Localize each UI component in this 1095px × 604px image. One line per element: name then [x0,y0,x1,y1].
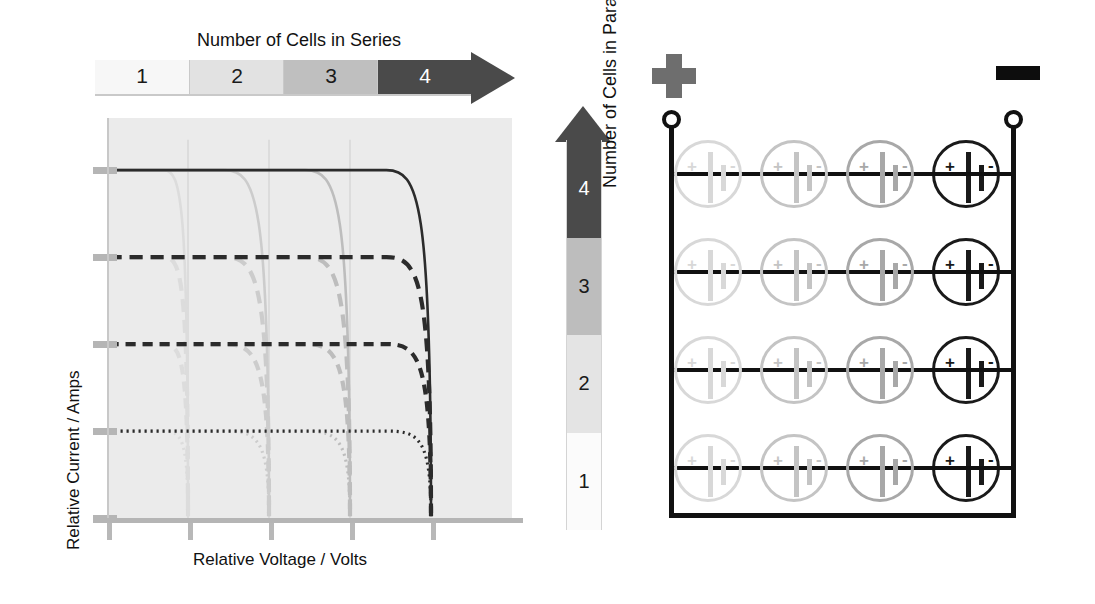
cell-minus-label: - [730,353,736,370]
battery-cell: +- [846,238,914,306]
chart-y-axis-line [107,118,109,518]
chart-curves [107,118,512,518]
series-legend-title: Number of Cells in Series [197,30,401,51]
series-band-label: 3 [325,64,337,88]
cell-negative-plate [807,459,812,485]
cell-negative-plate [979,361,984,387]
iv-chart: Relative Current / Amps Relative Voltage… [40,110,540,580]
cell-minus-label: - [816,353,822,370]
chart-curve [109,257,350,516]
negative-terminal-node [1004,110,1023,129]
chart-y-tick [93,428,117,435]
parallel-legend-title: Number of Cells in Parallel [600,0,621,188]
cell-negative-plate [893,459,898,485]
cell-negative-plate [807,165,812,191]
cell-negative-plate [979,263,984,289]
cell-negative-plate [807,361,812,387]
negative-terminal-icon [996,66,1040,80]
parallel-band-label: 2 [578,372,589,395]
cell-positive-plate [794,250,799,301]
cell-minus-label: - [730,157,736,174]
battery-array-schematic: +-+-+-+-+-+-+-+-+-+-+-+-+-+-+-+- [648,48,1068,548]
cell-minus-label: - [902,353,908,370]
battery-cell: +- [760,434,828,502]
cell-positive-plate [966,152,971,203]
cell-positive-plate [880,250,885,301]
cell-plus-label: + [859,256,869,273]
diagram-canvas: Number of Cells in Series 1234 Relative … [0,0,1095,604]
cell-minus-label: - [902,157,908,174]
cell-positive-plate [966,446,971,497]
cell-minus-label: - [902,255,908,272]
positive-terminal-node [662,110,681,129]
battery-cell: +- [760,238,828,306]
cell-minus-label: - [730,255,736,272]
parallel-band-2: 2 [566,335,602,433]
chart-x-axis-label: Relative Voltage / Volts [193,550,367,570]
cell-positive-plate [708,348,713,399]
battery-cell: +- [674,238,742,306]
parallel-band-label: 4 [578,177,589,200]
battery-cell: +- [846,434,914,502]
battery-cell: +- [846,336,914,404]
cell-positive-plate [794,152,799,203]
right-bus-bar [1011,128,1016,518]
positive-terminal-icon [652,54,696,98]
cell-negative-plate [721,361,726,387]
chart-curve [109,257,188,516]
battery-cell: +- [674,140,742,208]
cell-negative-plate [893,165,898,191]
cell-plus-label: + [773,452,783,469]
series-band-4: 4 [377,60,472,94]
parallel-band-label: 1 [578,470,589,493]
cell-negative-plate [721,165,726,191]
cell-plus-label: + [773,354,783,371]
cell-negative-plate [893,361,898,387]
chart-y-tick [93,254,117,261]
battery-cell: +- [760,336,828,404]
battery-cell: +- [846,140,914,208]
chart-y-tick [93,167,117,174]
bottom-bus-bar [669,513,1016,518]
battery-cell: +- [760,140,828,208]
cell-positive-plate [708,250,713,301]
cell-positive-plate [966,348,971,399]
series-band-3: 3 [283,60,378,94]
cell-negative-plate [979,459,984,485]
series-legend-arrow: 1234 [95,58,515,98]
cell-positive-plate [794,446,799,497]
parallel-band-3: 3 [566,238,602,336]
cell-minus-label: - [902,451,908,468]
chart-y-axis-label: Relative Current / Amps [64,370,84,550]
cell-plus-label: + [687,452,697,469]
cell-row-wire-segment [932,368,1016,372]
cell-plus-label: + [687,256,697,273]
left-bus-bar [669,128,674,518]
cell-plus-label: + [859,452,869,469]
series-band-label: 1 [136,64,148,88]
chart-y-tick [93,341,117,348]
parallel-band-label: 3 [578,275,589,298]
cell-plus-label: + [859,158,869,175]
cell-row-wire-segment [932,172,1016,176]
series-band-2: 2 [189,60,284,94]
cell-plus-label: + [773,256,783,273]
cell-negative-plate [721,459,726,485]
cell-minus-label: - [816,157,822,174]
cell-positive-plate [880,348,885,399]
parallel-band-1: 1 [566,433,602,531]
cell-negative-plate [807,263,812,289]
cell-plus-label: + [687,354,697,371]
cell-row-wire-segment [932,270,1016,274]
chart-x-axis-line [93,518,523,523]
cell-plus-label: + [859,354,869,371]
cell-negative-plate [979,165,984,191]
series-band-label: 4 [419,64,431,88]
battery-cell: +- [674,434,742,502]
chart-curve [109,431,350,516]
parallel-legend-arrow: 1234 [566,140,600,530]
cell-plus-label: + [773,158,783,175]
chart-plot-area [107,118,512,518]
cell-minus-label: - [816,451,822,468]
chart-curve [109,431,188,516]
